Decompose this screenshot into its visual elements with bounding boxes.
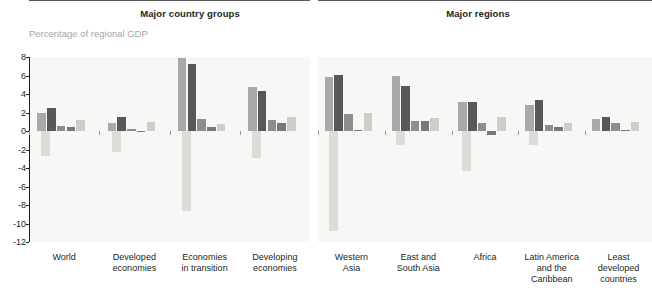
bar xyxy=(545,125,554,131)
panel-title-major-regions: Major regions xyxy=(388,8,568,19)
bar xyxy=(117,117,126,131)
bar xyxy=(325,77,334,131)
bar xyxy=(217,124,226,131)
bar xyxy=(468,102,477,131)
bar xyxy=(147,122,156,131)
x-tick-mark xyxy=(585,131,586,135)
bar xyxy=(421,121,430,131)
bar-negative xyxy=(182,131,191,211)
zero-line-right xyxy=(318,0,652,1)
bar xyxy=(611,123,620,131)
zero-line-left xyxy=(29,0,310,1)
x-tick-mark xyxy=(99,131,100,135)
bar xyxy=(127,129,136,131)
bar-negative xyxy=(252,131,261,158)
bar xyxy=(258,91,267,131)
bar xyxy=(564,123,573,131)
bar xyxy=(554,127,563,131)
bar xyxy=(57,126,66,131)
bar xyxy=(411,121,420,131)
bar xyxy=(37,113,46,131)
bar xyxy=(76,120,85,131)
bar xyxy=(497,117,506,131)
bar xyxy=(525,105,534,131)
bar xyxy=(277,123,286,131)
panel-background-left xyxy=(29,57,310,242)
category-label: Least developed countries xyxy=(574,252,652,285)
bar xyxy=(535,100,544,131)
bar xyxy=(621,130,630,131)
bar xyxy=(344,114,353,131)
bar-negative xyxy=(462,131,471,171)
bar xyxy=(268,120,277,131)
bar-negative xyxy=(329,131,338,231)
x-tick-mark xyxy=(452,131,453,135)
bar xyxy=(592,119,601,131)
bar xyxy=(458,102,467,131)
bar xyxy=(430,118,439,131)
bar xyxy=(354,130,363,131)
bar xyxy=(602,117,611,131)
bar xyxy=(487,131,496,135)
bar xyxy=(47,108,56,131)
bar xyxy=(631,122,640,131)
bar xyxy=(178,58,187,131)
bar xyxy=(334,75,343,131)
bar xyxy=(287,117,296,131)
bar xyxy=(248,87,257,131)
x-tick-mark xyxy=(318,131,319,135)
x-tick-mark xyxy=(518,131,519,135)
panel-background-right xyxy=(318,57,652,242)
y-tick-mark xyxy=(26,242,29,243)
bar xyxy=(197,119,206,131)
bar xyxy=(401,86,410,131)
bar xyxy=(364,113,373,131)
x-tick-mark xyxy=(29,131,30,135)
panel-title-major-country-groups: Major country groups xyxy=(100,8,280,19)
bar xyxy=(392,76,401,131)
bar-negative xyxy=(529,131,538,145)
bar xyxy=(207,127,216,131)
bar xyxy=(188,64,197,131)
bar-negative xyxy=(112,131,121,152)
bar xyxy=(478,123,487,131)
chart-container: Major country groups Major regions Perce… xyxy=(0,0,652,296)
y-axis-ticks xyxy=(0,57,30,242)
bar xyxy=(67,127,76,131)
bar xyxy=(108,123,117,131)
x-tick-mark xyxy=(240,131,241,135)
bar xyxy=(137,131,146,132)
y-axis-line xyxy=(29,57,30,242)
x-tick-mark xyxy=(385,131,386,135)
x-tick-mark xyxy=(170,131,171,135)
bar-negative xyxy=(41,131,50,156)
bar-negative xyxy=(396,131,405,145)
y-axis-caption: Percentage of regional GDP xyxy=(29,28,148,39)
